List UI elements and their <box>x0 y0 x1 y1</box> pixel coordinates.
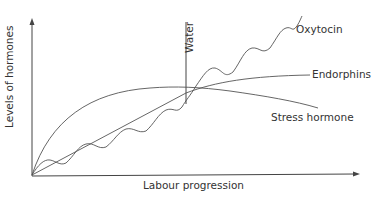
water-marker-label: Water <box>184 22 195 53</box>
oxytocin-label: Oxytocin <box>296 24 343 35</box>
endorphins-curve <box>32 75 310 175</box>
x-axis-arrow-icon <box>353 172 360 177</box>
x-axis <box>32 172 360 177</box>
y-axis-label: Levels of hormones <box>4 26 15 128</box>
y-axis-arrow-icon <box>30 18 35 25</box>
stress-hormone-curve <box>32 87 318 175</box>
stress-hormone-label: Stress hormone <box>271 112 354 123</box>
x-axis-label: Labour progression <box>143 180 244 191</box>
y-axis <box>30 18 35 176</box>
endorphins-label: Endorphins <box>312 69 371 80</box>
